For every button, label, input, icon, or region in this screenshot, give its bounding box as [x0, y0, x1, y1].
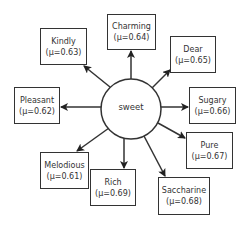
node-saccharine: Saccharine (μ=0.68): [158, 177, 210, 215]
node-score: (μ=0.64): [114, 32, 150, 43]
word-association-diagram: sweet Kindly (μ=0.63) Charming (μ=0.64) …: [0, 0, 249, 226]
node-kindly: Kindly (μ=0.63): [40, 28, 87, 65]
edge-arrow-saccharine: [144, 136, 165, 176]
node-melodious: Melodious (μ=0.61): [40, 152, 89, 189]
node-score: (μ=0.65): [175, 55, 211, 66]
edge-arrow-melodious: [77, 128, 109, 151]
node-score: (μ=0.69): [95, 188, 131, 199]
node-pure: Pure (μ=0.67): [186, 132, 233, 169]
node-word: Sugary: [198, 95, 226, 106]
node-word: Dear: [183, 44, 202, 55]
node-word: Charming: [112, 21, 151, 32]
center-node-label: sweet: [101, 102, 161, 112]
node-dear: Dear (μ=0.65): [170, 36, 216, 73]
node-score: (μ=0.67): [192, 151, 228, 162]
node-word: Rich: [104, 177, 121, 188]
node-word: Pure: [201, 140, 219, 151]
node-score: (μ=0.62): [19, 106, 55, 117]
node-score: (μ=0.61): [47, 171, 83, 182]
node-charming: Charming (μ=0.64): [107, 14, 156, 50]
node-score: (μ=0.66): [195, 106, 231, 117]
node-rich: Rich (μ=0.69): [90, 169, 136, 206]
node-word: Kindly: [51, 36, 76, 47]
node-pleasant: Pleasant (μ=0.62): [14, 87, 60, 124]
edge-arrow-pure: [158, 123, 185, 138]
node-score: (μ=0.68): [166, 196, 202, 207]
node-word: Pleasant: [20, 95, 54, 106]
edge-arrow-kindly: [84, 66, 110, 87]
node-sugary: Sugary (μ=0.66): [189, 87, 236, 124]
node-word: Saccharine: [162, 185, 206, 196]
node-score: (μ=0.63): [46, 47, 82, 58]
edge-arrow-dear: [152, 70, 170, 88]
node-word: Melodious: [44, 160, 84, 171]
